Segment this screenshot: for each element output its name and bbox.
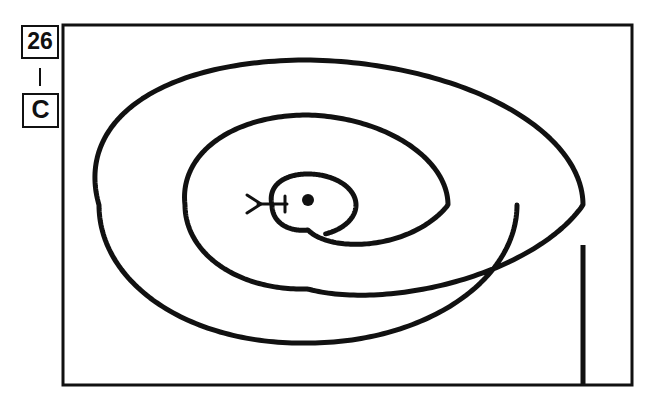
- drawing-border: [63, 25, 632, 385]
- figure-number-label: 26: [22, 26, 58, 58]
- view-letter-label: C: [23, 94, 58, 127]
- view-letter-text: C: [31, 95, 49, 123]
- figure-canvas: 26 C: [0, 0, 652, 408]
- center-point-marker: [302, 194, 314, 206]
- patent-figure-view: 26 C: [0, 0, 652, 408]
- figure-number-text: 26: [27, 28, 53, 54]
